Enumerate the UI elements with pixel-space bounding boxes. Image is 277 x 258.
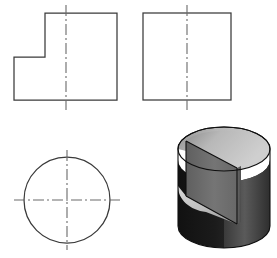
pictorial-notched-cylinder (178, 127, 270, 248)
drawing-sheet (0, 0, 277, 258)
front-view (0, 0, 277, 258)
pict-notch-side-wall (237, 166, 241, 224)
